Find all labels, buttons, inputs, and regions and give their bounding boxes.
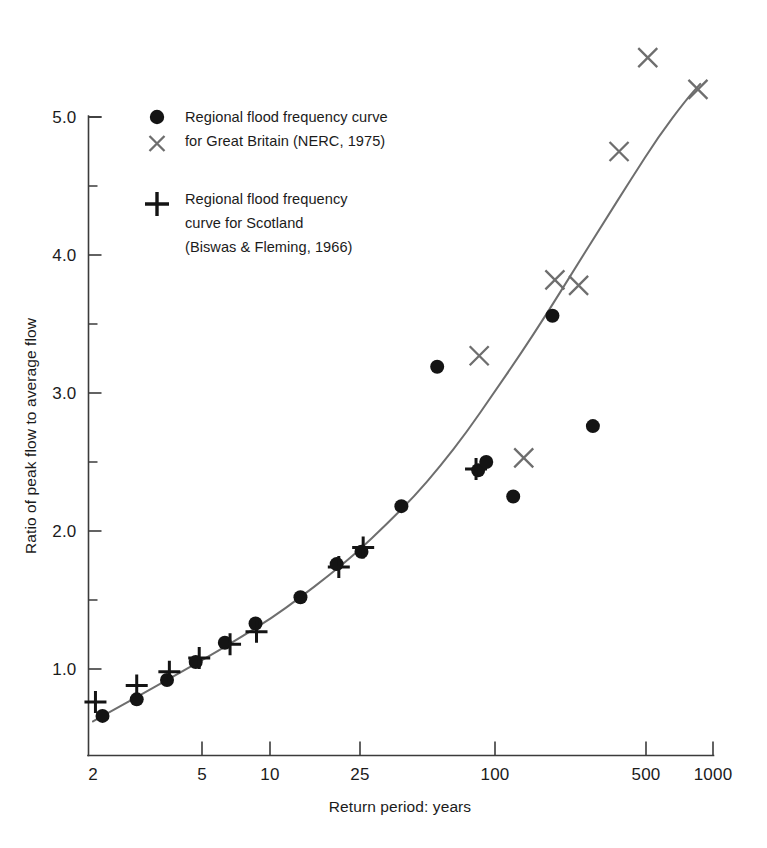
x-tick-label: 25 <box>350 765 369 784</box>
legend-label-scotland-line-2: curve for Scotland <box>185 215 304 231</box>
legend: Regional flood frequency curve for Great… <box>145 109 388 255</box>
regional-frequency-fit-curve <box>93 84 700 722</box>
data-point-circle <box>330 557 344 571</box>
legend-label-scotland-line-3: (Biswas & Fleming, 1966) <box>185 239 352 255</box>
x-tick-label: 100 <box>481 765 510 784</box>
legend-label-scotland-line-1: Regional flood frequency <box>185 191 348 207</box>
data-point-circle <box>506 490 520 504</box>
legend-circle-icon <box>150 110 164 124</box>
series-scotland-plus-markers <box>84 458 487 713</box>
legend-label-gb-line-2: for Great Britain (NERC, 1975) <box>185 133 385 149</box>
x-axis-title: Return period: years <box>329 798 472 815</box>
legend-plus-icon <box>145 192 169 216</box>
data-point-circle <box>479 455 493 469</box>
y-tick-label: 4.0 <box>52 246 76 265</box>
y-axis-tick-labels: 1.02.03.04.05.0 <box>52 108 76 679</box>
y-tick-label: 5.0 <box>52 108 76 127</box>
data-point-cross <box>545 270 564 289</box>
data-point-circle <box>96 709 110 723</box>
legend-entry-scotland[interactable]: Regional flood frequency curve for Scotl… <box>145 191 352 255</box>
data-point-cross <box>470 346 489 365</box>
data-point-circle <box>430 360 444 374</box>
x-tick-label: 10 <box>260 765 279 784</box>
data-point-circle <box>394 499 408 513</box>
x-tick-label: 1000 <box>694 765 733 784</box>
data-point-cross <box>638 48 657 67</box>
data-point-cross <box>610 142 629 161</box>
series-great-britain-circle-markers <box>96 309 600 723</box>
legend-entry-great-britain[interactable]: Regional flood frequency curve for Great… <box>150 109 388 151</box>
data-point-cross <box>569 276 588 295</box>
y-tick-label: 2.0 <box>52 522 76 541</box>
axes <box>88 116 714 756</box>
data-point-cross <box>688 80 707 99</box>
x-axis-tick-labels: 2510251005001000 <box>88 765 732 784</box>
y-tick-label: 3.0 <box>52 384 76 403</box>
x-tick-label: 500 <box>632 765 661 784</box>
legend-label-gb-line-1: Regional flood frequency curve <box>185 109 388 125</box>
data-point-circle <box>545 309 559 323</box>
chart-canvas: 1.02.03.04.05.0 2510251005001000 Return … <box>0 0 767 848</box>
data-point-circle <box>160 673 174 687</box>
x-tick-label: 5 <box>197 765 207 784</box>
y-axis-title: Ratio of peak flow to average flow <box>22 317 39 554</box>
y-tick-label: 1.0 <box>52 660 76 679</box>
data-point-cross <box>514 448 533 467</box>
data-point-circle <box>293 590 307 604</box>
y-axis-ticks <box>89 117 102 669</box>
legend-cross-icon <box>150 136 165 151</box>
data-point-circle <box>586 419 600 433</box>
flood-frequency-chart: 1.02.03.04.05.0 2510251005001000 Return … <box>0 0 767 848</box>
x-axis-ticks <box>202 742 713 756</box>
x-tick-label: 2 <box>88 765 98 784</box>
series-great-britain-cross-markers <box>470 48 708 467</box>
